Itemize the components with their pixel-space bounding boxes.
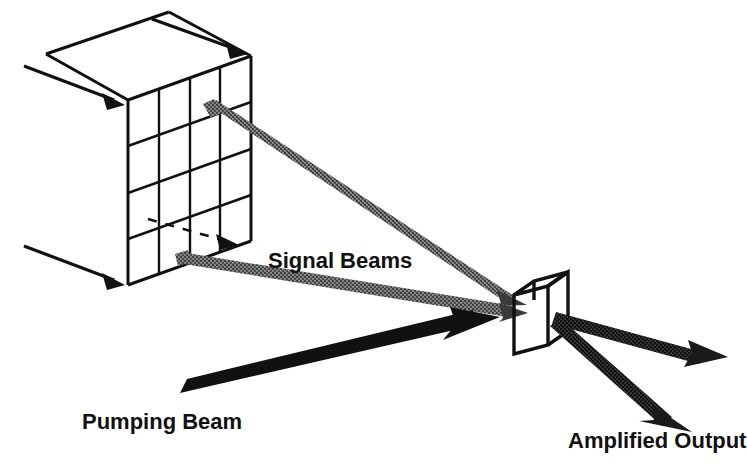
diagram-canvas: Signal Beams Pumping Beam Amplified Outp… <box>0 0 747 465</box>
label-signal-beams: Signal Beams <box>268 248 412 273</box>
label-amplified-output: Amplified Output <box>568 428 747 453</box>
label-pumping-beam: Pumping Beam <box>82 409 242 434</box>
optical-amplifier-diagram: Signal Beams Pumping Beam Amplified Outp… <box>0 0 747 465</box>
